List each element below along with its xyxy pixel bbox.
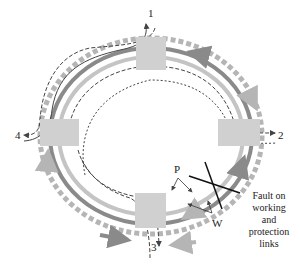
node-2-label: 2 xyxy=(278,130,284,141)
node-2 xyxy=(218,119,260,146)
node-1 xyxy=(136,37,166,70)
fault-caption: Fault on working and protection links xyxy=(240,190,298,250)
node-4 xyxy=(40,119,79,146)
working-label: W xyxy=(212,218,222,229)
node-3-label: 3 xyxy=(151,242,157,253)
node-4-label: 4 xyxy=(15,130,21,141)
protection-label: P xyxy=(174,164,180,175)
node-3 xyxy=(135,193,166,228)
node-1-label: 1 xyxy=(148,8,154,19)
